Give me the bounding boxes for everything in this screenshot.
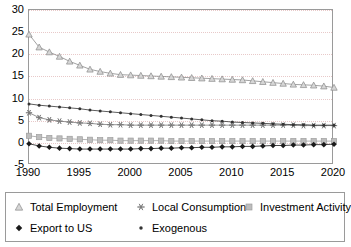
data-point-diamond: [250, 144, 256, 150]
data-point-dot: [78, 107, 81, 110]
data-point-dot: [211, 119, 214, 122]
data-point-diamond: [128, 146, 134, 152]
data-point-dot: [272, 122, 275, 125]
data-point-dot: [119, 111, 122, 114]
data-point-asterisk: [158, 122, 164, 127]
data-point-diamond: [230, 144, 236, 150]
legend-item[interactable]: Total Employment: [12, 196, 117, 217]
data-point-diamond: [87, 146, 93, 152]
data-point-dot: [190, 117, 193, 120]
x-tick-label: 2005: [168, 166, 192, 178]
data-point-diamond: [209, 144, 215, 150]
data-point-dot: [139, 226, 142, 229]
plot-area: -5051015202530 1990199520002005201020152…: [0, 0, 350, 180]
series-exogenous: [28, 102, 336, 126]
data-point-asterisk: [168, 122, 174, 127]
data-point-dot: [200, 118, 203, 121]
data-point-asterisk: [209, 122, 215, 127]
data-point-diamond: [219, 144, 225, 150]
data-point-square: [98, 138, 103, 143]
series-lines: [29, 10, 334, 165]
data-point-triangle: [77, 62, 83, 68]
data-point-dot: [129, 112, 132, 115]
data-point-diamond: [47, 144, 53, 150]
y-tick-label: 5: [0, 115, 24, 125]
data-point-dot: [302, 123, 305, 126]
data-point-diamond: [158, 145, 164, 151]
x-tick-label: 1995: [67, 166, 91, 178]
data-point-asterisk: [87, 121, 93, 126]
series-investment-activity: [26, 133, 336, 144]
data-point-square: [118, 138, 123, 143]
y-tick-label: 10: [0, 93, 24, 103]
data-point-square: [47, 135, 52, 140]
data-point-diamond: [26, 141, 32, 147]
data-point-square: [159, 138, 164, 143]
data-point-triangle: [56, 53, 62, 59]
data-point-diamond: [199, 144, 205, 150]
data-point-diamond: [57, 145, 63, 151]
data-point-asterisk: [138, 122, 144, 127]
data-point-dot: [38, 104, 41, 107]
legend-item-label: Local Consumption: [152, 200, 246, 214]
legend-item[interactable]: Investment Activity: [242, 196, 351, 217]
data-point-diamond: [97, 146, 103, 152]
legend-item-label: Investment Activity: [260, 200, 351, 214]
data-point-triangle: [66, 58, 72, 64]
data-point-diamond: [189, 145, 195, 151]
data-point-square: [179, 138, 184, 143]
data-point-square: [77, 137, 82, 142]
asterisk-marker-icon: [134, 200, 148, 214]
data-point-square: [189, 138, 194, 143]
data-point-diamond: [118, 146, 124, 152]
legend-item[interactable]: Export to US: [12, 217, 92, 238]
data-point-asterisk: [199, 122, 205, 127]
square-marker-icon: [242, 200, 256, 214]
data-point-asterisk: [219, 122, 225, 127]
data-point-asterisk: [178, 122, 184, 127]
data-point-dot: [160, 115, 163, 118]
data-point-dot: [99, 109, 102, 112]
data-point-square: [57, 136, 62, 141]
data-point-square: [67, 136, 72, 141]
data-point-dot: [231, 121, 234, 124]
data-point-asterisk: [67, 119, 73, 124]
data-point-diamond: [67, 146, 73, 152]
data-point-dot: [333, 124, 336, 127]
data-point-square: [260, 138, 265, 143]
data-point-square: [148, 138, 153, 143]
data-point-dot: [170, 116, 173, 119]
data-point-dot: [282, 123, 285, 126]
data-point-asterisk: [189, 122, 195, 127]
data-point-square: [128, 138, 133, 143]
data-point-square: [230, 138, 235, 143]
data-point-dot: [89, 109, 92, 112]
data-point-asterisk: [77, 120, 83, 125]
data-point-asterisk: [36, 115, 42, 120]
data-point-asterisk: [148, 122, 154, 127]
data-point-diamond: [179, 145, 185, 151]
data-point-square: [220, 138, 225, 143]
dot-marker-icon: [134, 221, 148, 235]
data-point-dot: [109, 110, 112, 113]
data-point-dot: [261, 122, 264, 125]
data-point-square: [108, 138, 113, 143]
legend-item[interactable]: Local Consumption: [134, 196, 246, 217]
chart-legend: Total EmploymentLocal ConsumptionInvestm…: [5, 192, 345, 242]
data-point-diamond: [148, 146, 154, 152]
data-point-dot: [58, 105, 61, 108]
legend-item[interactable]: Exogenous: [134, 217, 207, 238]
y-tick-label: 15: [0, 70, 24, 80]
data-point-dot: [139, 113, 142, 116]
data-point-triangle: [46, 49, 52, 55]
data-point-asterisk: [117, 122, 123, 127]
data-point-asterisk: [46, 117, 52, 122]
data-point-triangle: [15, 203, 22, 210]
data-point-asterisk: [97, 122, 103, 127]
data-point-square: [26, 133, 31, 138]
data-point-square: [138, 138, 143, 143]
data-point-square: [37, 135, 42, 140]
data-point-asterisk: [56, 118, 62, 123]
data-point-dot: [180, 117, 183, 120]
